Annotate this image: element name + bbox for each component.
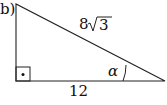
triangle-outline [16,4,165,81]
right-angle-dot [22,73,25,76]
angle-label: α [108,64,118,79]
hypotenuse-radicand: 3 [99,18,109,33]
base-label: 12 [69,84,88,99]
angle-arc [123,65,126,81]
hypotenuse-coefficient: 8 [79,17,89,32]
